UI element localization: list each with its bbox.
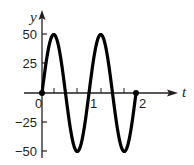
end-point	[133, 90, 139, 96]
t-axis-label: t	[182, 84, 187, 100]
t-tick-1: 1	[90, 96, 97, 111]
y-tick-25: 25	[23, 56, 37, 71]
y-tick-neg50: −50	[15, 144, 37, 159]
start-point	[39, 90, 45, 96]
y-axis-label: y	[28, 9, 37, 25]
y-tick-neg25: −25	[15, 115, 37, 130]
sine-chart: y t 50 25 −25 −50 0 1 2	[0, 0, 194, 165]
y-tick-50: 50	[23, 27, 37, 42]
t-tick-2: 2	[139, 96, 146, 111]
t-tick-0: 0	[35, 96, 42, 111]
